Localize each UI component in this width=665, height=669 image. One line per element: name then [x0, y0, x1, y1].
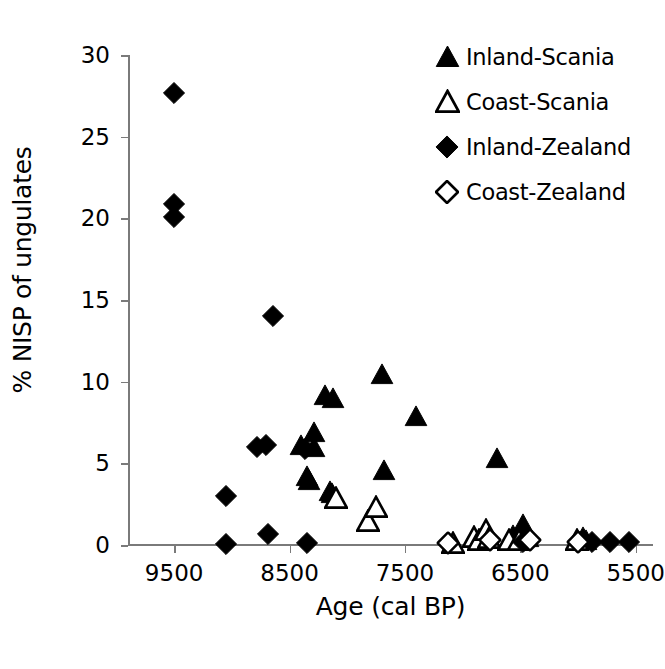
data-point-open-triangle — [565, 528, 589, 552]
x-tick — [636, 545, 638, 553]
filled-diamond-icon — [432, 134, 462, 160]
data-point-open-triangle — [497, 528, 521, 552]
scatter-chart-figure: % NISP of ungulates 051015202530 9500850… — [0, 0, 665, 669]
y-tick-label: 10 — [81, 369, 110, 395]
y-tick-label: 30 — [81, 42, 110, 68]
data-point-filled-diamond — [215, 485, 238, 508]
legend-item-label: Inland-Scania — [466, 44, 614, 70]
y-tick: 20 — [121, 218, 128, 220]
data-point-filled-diamond — [163, 81, 186, 104]
x-axis-title: Age (cal BP) — [128, 592, 653, 621]
x-tick — [520, 545, 522, 553]
y-tick: 25 — [121, 137, 128, 139]
data-point-filled-triangle — [320, 481, 344, 505]
y-axis-line — [128, 55, 130, 545]
data-point-filled-triangle — [302, 420, 326, 444]
data-point-open-diamond — [436, 531, 459, 554]
data-point-filled-diamond — [293, 437, 316, 460]
data-point-open-triangle — [474, 518, 498, 542]
data-point-open-diamond — [567, 530, 590, 553]
legend-item-inland-zealand: Inland-Zealand — [432, 124, 657, 169]
legend-item-inland-scania: Inland-Scania — [432, 34, 657, 79]
open-diamond-icon — [432, 179, 462, 205]
data-point-filled-triangle — [574, 528, 598, 552]
y-tick-label: 15 — [81, 287, 110, 313]
legend-item-label: Coast-Zealand — [466, 179, 626, 205]
legend-item-label: Inland-Zealand — [466, 134, 631, 160]
y-axis-title: % NISP of ungulates — [0, 0, 44, 540]
chart-legend: Inland-ScaniaCoast-ScaniaInland-ZealandC… — [432, 34, 657, 214]
x-tick — [405, 545, 407, 553]
data-point-filled-diamond — [246, 436, 269, 459]
data-point-filled-triangle — [289, 433, 313, 457]
data-point-filled-diamond — [163, 205, 186, 228]
y-tick-label: 25 — [81, 124, 110, 150]
data-point-filled-triangle — [313, 383, 337, 407]
data-point-open-triangle — [507, 528, 531, 552]
x-tick-label: 9500 — [145, 560, 204, 586]
data-point-open-triangle — [364, 495, 388, 519]
data-point-filled-diamond — [599, 530, 622, 553]
x-tick-label: 7500 — [376, 560, 435, 586]
legend-item-label: Coast-Scania — [466, 89, 609, 115]
x-tick — [174, 545, 176, 553]
data-point-filled-triangle — [321, 386, 345, 410]
x-tick-label: 5500 — [606, 560, 665, 586]
data-point-filled-diamond — [255, 434, 278, 457]
open-triangle-icon — [432, 89, 462, 115]
data-point-filled-diamond — [580, 530, 603, 553]
y-tick-label: 5 — [95, 450, 110, 476]
y-tick: 5 — [121, 463, 128, 465]
data-point-open-triangle — [467, 528, 491, 552]
y-tick-label: 20 — [81, 205, 110, 231]
filled-triangle-icon — [432, 44, 462, 70]
data-point-filled-triangle — [295, 464, 319, 488]
x-tick — [290, 545, 292, 553]
legend-item-coast-scania: Coast-Scania — [432, 79, 657, 124]
legend-item-coast-zealand: Coast-Zealand — [432, 169, 657, 214]
data-point-filled-diamond — [511, 530, 534, 553]
y-tick: 30 — [121, 55, 128, 57]
y-tick: 10 — [121, 382, 128, 384]
data-point-open-triangle — [356, 509, 380, 533]
data-point-filled-triangle — [372, 458, 396, 482]
y-tick: 0 — [121, 545, 128, 547]
data-point-filled-diamond — [262, 305, 285, 328]
x-tick-label: 6500 — [491, 560, 550, 586]
y-tick: 15 — [121, 300, 128, 302]
data-point-filled-triangle — [485, 446, 509, 470]
data-point-filled-triangle — [302, 435, 326, 459]
data-point-filled-triangle — [404, 404, 428, 428]
data-point-filled-diamond — [163, 192, 186, 215]
data-point-open-diamond — [479, 529, 502, 552]
data-point-filled-triangle — [370, 362, 394, 386]
data-point-open-triangle — [324, 486, 348, 510]
x-tick-label: 8500 — [260, 560, 319, 586]
data-point-filled-triangle — [297, 468, 321, 492]
data-point-filled-diamond — [256, 522, 279, 545]
y-tick-label: 0 — [95, 532, 110, 558]
data-point-filled-triangle — [511, 512, 535, 536]
data-point-open-triangle — [477, 526, 501, 550]
x-axis-line — [128, 544, 653, 546]
data-point-filled-triangle — [318, 479, 342, 503]
